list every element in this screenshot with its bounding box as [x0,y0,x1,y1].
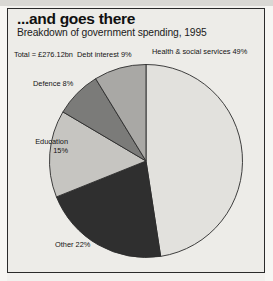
slice-label-education: Education 15% [20,137,68,155]
slice-label-health: Health & social services 49% [152,47,247,56]
slice-label-education-name: Education [20,137,68,146]
pie-slices [49,65,242,258]
total-annotation: Total = £276.12bn [14,50,73,59]
slice-label-other: Other 22% [55,240,90,249]
slice-label-debt-interest: Debt interest 9% [77,50,132,59]
pie-chart: Total = £276.12bn Debt interest 9% Healt… [0,0,273,281]
figure-panel: ...and goes there Breakdown of governmen… [0,0,273,281]
slice-label-education-pct: 15% [20,146,68,155]
pie-slice-health-social-services [146,65,243,257]
slice-label-defence: Defence 8% [33,79,73,88]
